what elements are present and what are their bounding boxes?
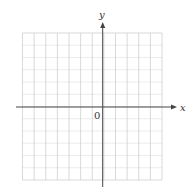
y-axis-label: y: [98, 9, 105, 20]
coordinate-grid: x y 0: [0, 0, 194, 191]
y-axis-arrow-icon: [100, 22, 105, 28]
x-axis-arrow-icon: [171, 105, 177, 110]
x-axis-label: x: [180, 102, 186, 113]
origin-label: 0: [94, 110, 100, 121]
